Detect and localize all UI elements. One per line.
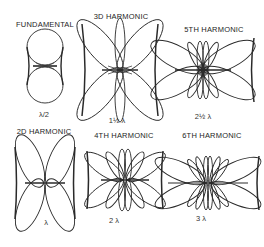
pattern-3d-harmonic	[70, 13, 171, 127]
pattern-5th-harmonic	[146, 34, 260, 107]
radiation-patterns-drawing	[0, 0, 264, 247]
pattern-6th-harmonic	[152, 152, 264, 214]
pattern-4th-harmonic	[81, 147, 170, 212]
pattern-2d-harmonic	[9, 131, 80, 235]
pattern-fundamental	[27, 29, 63, 103]
